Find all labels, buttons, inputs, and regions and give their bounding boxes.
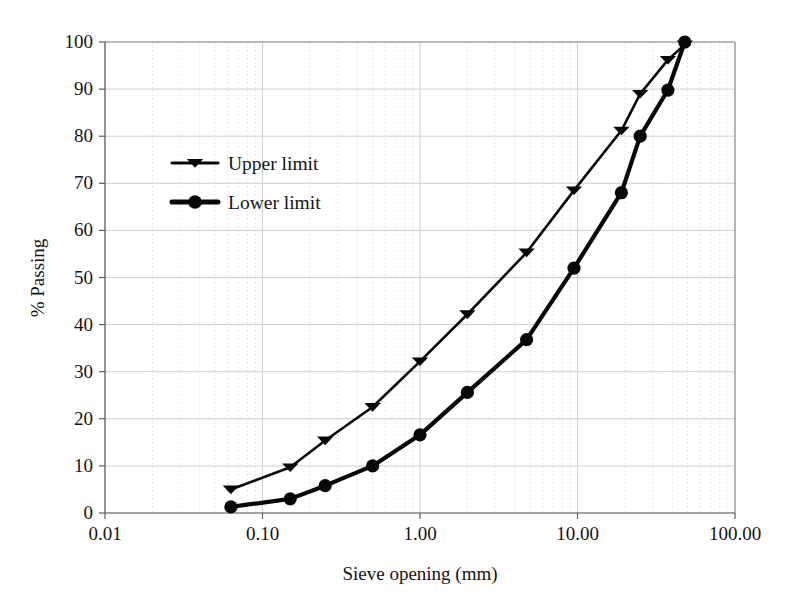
data-point-marker-triangle: [459, 310, 475, 319]
data-series: [223, 35, 693, 513]
y-axis-tick-labels: 0102030405060708090100: [65, 31, 94, 523]
data-point-marker-circle: [567, 261, 580, 274]
y-tick-label: 80: [74, 125, 93, 146]
chart-figure: 0.010.101.0010.00100.00 0102030405060708…: [0, 0, 799, 610]
data-point-marker-triangle: [660, 56, 676, 65]
series-path: [231, 44, 685, 489]
data-point-marker-triangle: [566, 186, 582, 195]
x-tick-label: 10.00: [556, 523, 599, 544]
x-axis-tick-labels: 0.010.101.0010.00100.00: [88, 523, 761, 544]
data-point-marker-circle: [661, 83, 674, 96]
legend-label: Lower limit: [228, 192, 321, 213]
data-point-marker-triangle: [412, 357, 428, 366]
x-axis-title: Sieve opening (mm): [342, 563, 497, 585]
data-point-marker-circle: [678, 35, 691, 48]
data-point-marker-circle: [413, 428, 426, 441]
data-point-marker-circle: [520, 333, 533, 346]
y-tick-label: 40: [74, 314, 93, 335]
x-tick-label: 0.01: [88, 523, 121, 544]
axis-tickmarks: [99, 42, 735, 519]
data-point-marker-triangle: [632, 90, 648, 99]
data-point-marker-circle: [634, 130, 647, 143]
y-tick-label: 10: [74, 455, 93, 476]
y-tick-label: 20: [74, 408, 93, 429]
legend-item-upper-limit[interactable]: Upper limit: [172, 153, 319, 174]
legend-item-lower-limit[interactable]: Lower limit: [172, 192, 321, 213]
data-point-marker-circle: [284, 492, 297, 505]
grain-size-distribution-chart: 0.010.101.0010.00100.00 0102030405060708…: [0, 0, 799, 610]
data-point-marker-triangle: [518, 249, 534, 258]
series-upper-limit: [223, 40, 693, 494]
y-tick-label: 60: [74, 219, 93, 240]
data-point-marker-triangle: [223, 486, 239, 495]
data-point-marker-triangle: [613, 127, 629, 136]
y-tick-label: 90: [74, 78, 93, 99]
data-point-marker-circle: [224, 500, 237, 513]
data-point-marker-circle: [615, 186, 628, 199]
series-lower-limit: [224, 35, 691, 513]
data-point-marker-circle: [461, 386, 474, 399]
y-tick-label: 30: [74, 361, 93, 382]
y-tick-label: 70: [74, 172, 93, 193]
x-tick-label: 100.00: [709, 523, 761, 544]
series-path: [231, 42, 685, 507]
y-axis-title: % Passing: [27, 238, 48, 317]
y-tick-label: 100: [65, 31, 94, 52]
y-tick-label: 0: [84, 502, 94, 523]
x-tick-label: 0.10: [246, 523, 279, 544]
legend-label: Upper limit: [228, 153, 319, 174]
y-tick-label: 50: [74, 267, 93, 288]
data-point-marker-circle: [319, 479, 332, 492]
data-point-marker-circle: [188, 195, 202, 209]
x-tick-label: 1.00: [403, 523, 436, 544]
data-point-marker-circle: [366, 459, 379, 472]
